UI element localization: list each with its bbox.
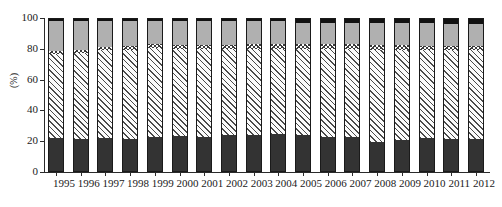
y-tick-label: 100	[12, 12, 38, 23]
x-tick-label-2012: 2012	[467, 178, 501, 189]
y-tick-label: 20	[12, 135, 38, 146]
y-axis-tick-labels: 020406080100	[6, 0, 38, 207]
x-axis-tick-labels: 1995199619971998199920002001200220032004…	[44, 0, 490, 207]
y-tick-label: 60	[12, 74, 38, 85]
stacked-bar-chart: (%) 020406080100 19951996199719981999200…	[0, 0, 502, 207]
y-tick-label: 80	[12, 43, 38, 54]
y-tick-label: 0	[12, 166, 38, 177]
y-tick-label: 40	[12, 104, 38, 115]
